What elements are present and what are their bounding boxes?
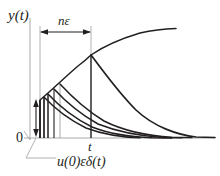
arrowhead-down (33, 129, 39, 137)
amplitude-arrow (33, 99, 39, 137)
arrowhead-right (83, 29, 91, 35)
origin-label: 0 (16, 131, 23, 145)
span-arrow-n-epsilon (40, 29, 91, 35)
impulse-annotation-label: u(0)εδ(t) (57, 155, 106, 169)
figure-canvas (0, 0, 220, 176)
decay-curve-peak (91, 55, 215, 138)
axes-group (24, 18, 215, 140)
impulse-response-figure: y(t) nε 0 t u(0)εδ(t) (0, 0, 220, 176)
y-axis-label: y(t) (8, 8, 29, 23)
t-tick-label: t (88, 140, 92, 153)
span-label-n-epsilon: nε (58, 14, 70, 27)
arrowhead-up (33, 99, 39, 107)
arrowhead-left (40, 29, 48, 35)
decay-curve-1 (60, 84, 192, 138)
